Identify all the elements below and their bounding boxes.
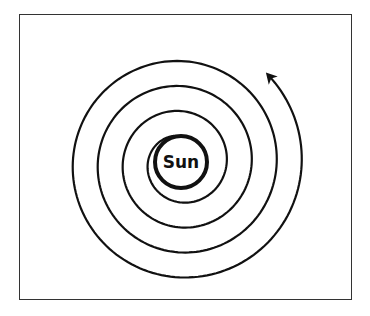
spiral-diagram: Sun bbox=[0, 0, 370, 316]
sun-label: Sun bbox=[163, 152, 199, 172]
